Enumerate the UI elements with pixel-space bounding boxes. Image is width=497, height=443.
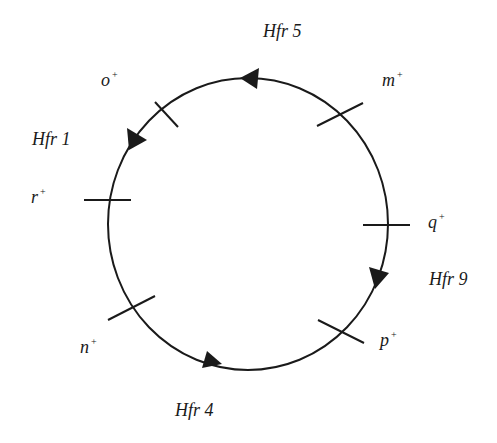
gene-label-m: m+ bbox=[382, 70, 403, 89]
gene-name: n bbox=[80, 337, 89, 357]
gene-allele: + bbox=[40, 186, 46, 197]
gene-label-q: q+ bbox=[428, 212, 445, 231]
gene-allele: + bbox=[91, 336, 97, 347]
gene-label-r: r+ bbox=[31, 187, 46, 206]
gene-allele: + bbox=[391, 329, 397, 340]
arrow-hfr4-icon bbox=[202, 351, 222, 368]
gene-tick-m bbox=[317, 103, 363, 126]
gene-tick-p bbox=[318, 320, 364, 343]
hfr-label-1: Hfr 1 bbox=[32, 130, 71, 148]
gene-allele: + bbox=[397, 69, 403, 80]
hfr-label-4: Hfr 4 bbox=[175, 401, 214, 419]
gene-allele: + bbox=[112, 69, 118, 80]
arrow-hfr5-icon bbox=[240, 68, 259, 89]
gene-name: p bbox=[380, 330, 389, 350]
gene-allele: + bbox=[439, 211, 445, 222]
arrow-hfr1-icon bbox=[127, 128, 147, 150]
gene-name: o bbox=[101, 70, 110, 90]
gene-tick-n bbox=[108, 296, 155, 320]
gene-label-n: n+ bbox=[80, 337, 97, 356]
gene-name: q bbox=[428, 212, 437, 232]
gene-label-p: p+ bbox=[380, 330, 397, 349]
gene-name: m bbox=[382, 70, 395, 90]
chromosome-circle bbox=[108, 78, 388, 370]
gene-name: r bbox=[31, 187, 38, 207]
gene-label-o: o+ bbox=[101, 70, 118, 89]
hfr-label-5: Hfr 5 bbox=[263, 22, 302, 40]
arrow-hfr9-icon bbox=[369, 267, 389, 289]
hfr-label-9: Hfr 9 bbox=[429, 270, 468, 288]
chromosome-diagram bbox=[0, 0, 497, 443]
